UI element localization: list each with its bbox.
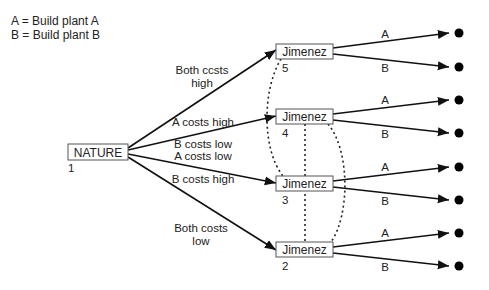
decision-number: 5: [282, 62, 288, 74]
decision-label: Jimenez: [282, 110, 327, 124]
branch-label-both-high-line1: Both ccsts: [175, 64, 228, 76]
decision-number: 3: [282, 194, 288, 206]
information-sets: [267, 59, 345, 242]
terminal-node: [455, 262, 464, 271]
edge-3-b: [333, 187, 449, 200]
legend-item-a: A = Build plant A: [11, 14, 99, 28]
action-edges: [333, 33, 449, 266]
edge-5-a: [333, 33, 449, 48]
terminal-node: [455, 129, 464, 138]
terminal-node: [455, 196, 464, 205]
edge-3-a: [333, 167, 449, 181]
branch-label-both-low-line2: low: [192, 235, 210, 247]
decision-number: 4: [282, 127, 289, 139]
action-label-2-a: A: [381, 227, 389, 239]
nature-node: NATURE 1: [68, 144, 128, 174]
branch-label-a-high: A costs high: [172, 116, 234, 128]
terminal-node: [455, 96, 464, 105]
terminal-node: [455, 29, 464, 38]
action-label-3-a: A: [381, 161, 389, 173]
action-label-5-a: A: [381, 28, 389, 40]
decision-node-5: Jimenez 5: [276, 44, 333, 74]
action-label-4-b: B: [381, 128, 389, 140]
terminal-nodes: [455, 29, 464, 271]
action-label-4-a: A: [381, 94, 389, 106]
terminal-node: [455, 163, 464, 172]
action-label-5-b: B: [381, 62, 389, 74]
game-tree-diagram: A = Build plant A B = Build plant B Both…: [0, 0, 489, 290]
terminal-node: [455, 229, 464, 238]
decision-number: 2: [282, 260, 288, 272]
edge-4-a: [333, 100, 449, 114]
nature-label: NATURE: [74, 146, 122, 160]
decision-node-2: Jimenez 2: [276, 242, 333, 272]
terminal-node: [455, 63, 464, 72]
action-label-3-b: B: [381, 195, 389, 207]
decision-label: Jimenez: [282, 177, 327, 191]
branch-label-both-high-line2: high: [191, 77, 213, 89]
edge-2-b: [333, 253, 449, 266]
legend: A = Build plant A B = Build plant B: [11, 14, 100, 42]
decision-node-3: Jimenez 3: [276, 176, 333, 206]
branch-label-b-low: B costs low: [174, 138, 233, 150]
action-label-2-b: B: [381, 261, 389, 273]
edge-4-b: [333, 120, 449, 133]
edge-2-a: [333, 233, 449, 247]
decision-label: Jimenez: [282, 45, 327, 59]
legend-item-b: B = Build plant B: [11, 28, 100, 42]
nature-number: 1: [68, 162, 74, 174]
branch-label-b-high: B costs high: [172, 173, 235, 185]
branch-label-both-low-line1: Both costs: [174, 222, 228, 234]
decision-label: Jimenez: [282, 243, 327, 257]
branch-label-a-low: A costs low: [174, 150, 232, 162]
edge-5-b: [333, 54, 449, 67]
